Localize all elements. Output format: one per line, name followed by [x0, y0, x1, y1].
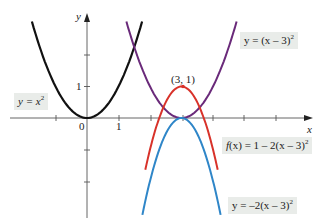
- x-tick-label-1: 1: [116, 121, 122, 132]
- x-axis-arrow-icon: [304, 115, 313, 121]
- origin-label: 0: [79, 121, 85, 132]
- legend-label-y-neg: y = –2(x – 3)2: [228, 197, 297, 214]
- y-axis-arrow-icon: [84, 13, 90, 22]
- legend-label-y-shift: y = (x – 3)2: [240, 32, 298, 49]
- y-tick-label-1: 1: [76, 81, 82, 92]
- curve-y-x-minus-3-squared: [126, 22, 236, 119]
- vertex-point: [181, 85, 185, 89]
- vertex-label: (3, 1): [171, 74, 195, 85]
- chart-figure: y x 0 1 1 (3, 1) y = x2 y = (x – 3)2 f(x…: [0, 0, 330, 223]
- y-axis-label: y: [76, 11, 81, 22]
- x-axis-label: x: [307, 124, 312, 135]
- legend-label-f-of-x: f(x) = 1 – 2(x – 3)2: [222, 137, 312, 154]
- legend-label-y-x-squared: y = x2: [14, 93, 48, 110]
